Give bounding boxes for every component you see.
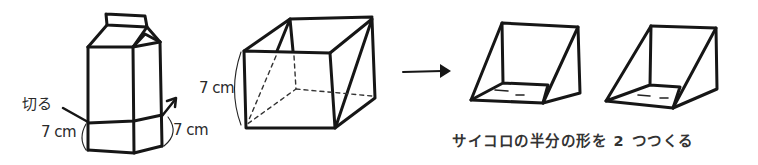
milk-carton-drawing [63, 14, 176, 153]
carton-width-label: 7 cm [173, 123, 208, 138]
carton-height-label: 7 cm [41, 125, 76, 140]
cube-height-label: 7 cm [199, 81, 234, 96]
right-arrow-icon [403, 64, 451, 78]
half-cube-drawing-2 [606, 26, 717, 108]
cut-label: 切る [22, 97, 52, 112]
half-cube-drawing-1 [471, 23, 580, 103]
instruction-caption: サイコロの半分の形を 2 つつくる [452, 134, 694, 149]
cube-drawing [235, 17, 376, 128]
